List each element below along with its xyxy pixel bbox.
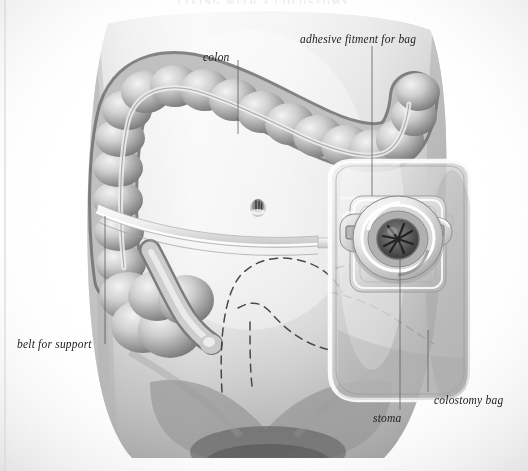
label-colon: colon [203,51,230,63]
label-belt-for-support: belt for support [17,338,92,350]
label-stoma: stoma [373,412,401,424]
illustration-page: LIVING WITH A COLOSTOMY [0,0,528,471]
label-adhesive-fitment: adhesive fitment for bag [300,33,416,45]
label-colostomy-bag: colostomy bag [434,394,503,406]
